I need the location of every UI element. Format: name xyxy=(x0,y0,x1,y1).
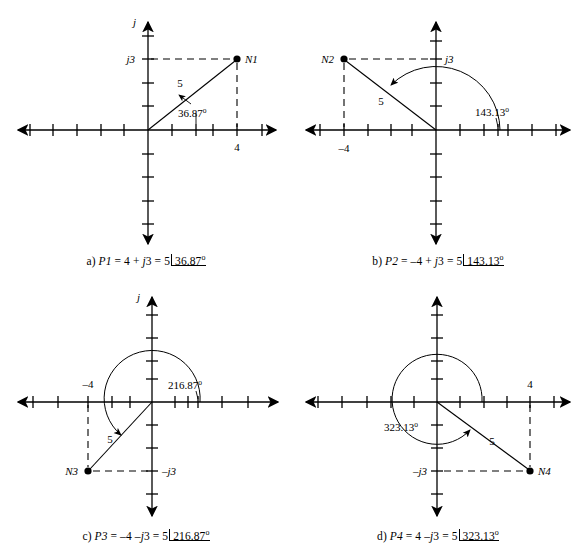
caption-c-angle-notation: 216.87o xyxy=(169,528,209,542)
caption-a-name: P1 xyxy=(99,255,112,267)
angle-label: 216.87o xyxy=(168,378,202,391)
caption-c-prefix: c) xyxy=(82,530,91,542)
y-value-label: j3 xyxy=(443,53,454,65)
phasor-point xyxy=(526,467,533,474)
point-label: N3 xyxy=(64,465,78,477)
caption-a-rest: 3 = 5 xyxy=(146,255,170,267)
caption-d-prefix: d) xyxy=(377,530,387,542)
magnitude-label: 5 xyxy=(378,95,384,107)
caption-c-name: P3 xyxy=(95,530,108,542)
angle-label: 323.13o xyxy=(384,420,418,433)
angle-arrow xyxy=(179,95,191,104)
caption-a-angle-notation: 36.87o xyxy=(171,253,205,267)
phasor-vector xyxy=(346,61,436,130)
point-label: N1 xyxy=(244,53,258,65)
magnitude-label: 5 xyxy=(489,435,495,447)
angle-label: 36.87o xyxy=(178,106,207,119)
panel-c: j –4 –j3 N3 5 216.87o c) P3 = –4 –j3 = 5… xyxy=(0,275,292,550)
panel-d: 4 –j3 N4 5 323.13o d) P4 = 4 –j3 = 5323.… xyxy=(292,275,584,550)
caption-b-rest: 3 = 5 xyxy=(438,255,462,267)
angle-leader-tick xyxy=(196,391,198,399)
y-value-label: –j3 xyxy=(412,465,428,477)
caption-b-prefix: b) xyxy=(372,255,382,267)
caption-d-eq: = 4 – xyxy=(403,530,430,542)
panel-d-diagram: 4 –j3 N4 5 323.13o xyxy=(292,275,584,550)
angle-leader-tick xyxy=(496,118,498,127)
caption-d-rest: 3 = 5 xyxy=(433,530,457,542)
magnitude-label: 5 xyxy=(107,433,113,445)
caption-b-degree: o xyxy=(500,253,504,262)
caption-c-rest: 3 = 5 xyxy=(144,530,168,542)
caption-b-name: P2 xyxy=(385,255,398,267)
panel-b: j3 N2 –4 5 143.13o b) P2 = –4 + j3 = 514… xyxy=(292,0,584,275)
caption-c-degree: o xyxy=(205,528,209,537)
caption-a-eq: = 4 + xyxy=(112,255,143,267)
caption-b: b) P2 = –4 + j3 = 5143.13o xyxy=(292,253,584,267)
caption-a-degree: o xyxy=(201,253,205,262)
caption-d-degree: o xyxy=(495,528,499,537)
phasor-point xyxy=(84,467,91,474)
phasor-point xyxy=(233,55,240,62)
caption-a: a) P1 = 4 + j3 = 536.87o xyxy=(0,253,292,267)
caption-b-eq: = –4 + xyxy=(398,255,435,267)
panel-c-diagram: j –4 –j3 N3 5 216.87o xyxy=(0,275,292,550)
caption-b-angle-notation: 143.13o xyxy=(463,253,503,267)
caption-d-angle: 323.13 xyxy=(463,530,495,542)
caption-d-angle-notation: 323.13o xyxy=(459,528,499,542)
x-value-label: 4 xyxy=(234,141,240,153)
point-label: N4 xyxy=(537,465,551,477)
point-label: N2 xyxy=(320,53,334,65)
caption-a-angle: 36.87 xyxy=(175,255,201,267)
y-axis-label: j xyxy=(135,291,140,303)
y-axis-label: j xyxy=(131,16,136,28)
phasor-vector xyxy=(90,402,152,469)
caption-c-angle: 216.87 xyxy=(173,530,205,542)
axis-group xyxy=(306,22,570,244)
phasor-vector xyxy=(437,402,528,469)
panel-b-diagram: j3 N2 –4 5 143.13o xyxy=(292,0,584,275)
phasor-point xyxy=(340,55,347,62)
angle-arc xyxy=(391,67,500,130)
panel-a-diagram: j j3 N1 4 5 36.87o xyxy=(0,0,292,275)
caption-c-eq: = –4 – xyxy=(108,530,141,542)
caption-a-prefix: a) xyxy=(86,255,95,267)
magnitude-label: 5 xyxy=(177,77,183,89)
caption-d: d) P4 = 4 –j3 = 5323.13o xyxy=(292,528,584,542)
panel-a: j j3 N1 4 5 36.87o a) P1 = 4 + j3 = 536.… xyxy=(0,0,292,275)
x-value-label: –4 xyxy=(338,142,351,154)
caption-c: c) P3 = –4 –j3 = 5216.87o xyxy=(0,528,292,542)
caption-d-name: P4 xyxy=(390,530,403,542)
y-value-label: j3 xyxy=(124,53,135,65)
caption-b-angle: 143.13 xyxy=(467,255,499,267)
y-value-label: –j3 xyxy=(161,465,177,477)
phasor-vector xyxy=(148,61,235,130)
phasor-figure: j j3 N1 4 5 36.87o a) P1 = 4 + j3 = 536.… xyxy=(0,0,584,550)
x-value-label: 4 xyxy=(527,378,533,390)
angle-label: 143.13o xyxy=(475,105,509,118)
x-value-label: –4 xyxy=(82,378,95,390)
